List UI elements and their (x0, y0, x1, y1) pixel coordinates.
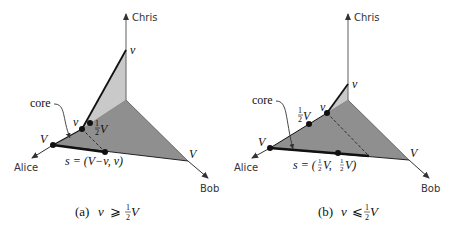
chris-v-label: v (130, 43, 136, 57)
alice-label: Alice (14, 162, 38, 173)
half-num: 1 (95, 119, 99, 128)
svg-text:v: v (341, 204, 347, 219)
caption-b: (b) v ⩽ 1 2 V (318, 203, 380, 222)
panel-a: Chris Alice Bob v V V v 1 2 V core s = (… (14, 12, 219, 194)
svg-text:2: 2 (365, 213, 369, 222)
svg-text:V: V (131, 204, 141, 219)
svg-text:2: 2 (340, 165, 344, 173)
s-point (335, 150, 341, 156)
alice-label: Alice (234, 162, 258, 173)
panel-b: Chris Alice Bob v V V v 1 2 V core s = (… (234, 12, 440, 194)
svg-text:s = (: s = ( (293, 158, 317, 172)
svg-text:1: 1 (318, 157, 322, 165)
s-formula: s = (V−v, v) (65, 154, 123, 168)
svg-text:V: V (370, 204, 380, 219)
point-v-label: v (73, 115, 79, 129)
bob-label: Bob (200, 183, 219, 194)
svg-text:⩾: ⩾ (110, 204, 121, 219)
caption-a: (a) v ⩾ 1 2 V (75, 203, 141, 222)
chris-label: Chris (132, 12, 157, 23)
core-diagram-figure: Chris Alice Bob v V V v 1 2 V core s = (… (0, 0, 454, 237)
core-label: core (252, 93, 273, 107)
half-den: 2 (298, 115, 302, 124)
s-formula: s = ( 1 2 V, 1 2 V) (293, 157, 356, 173)
svg-text:1: 1 (365, 203, 369, 212)
alice-V-point (50, 142, 56, 148)
alice-V-label: V (258, 135, 267, 149)
half-den: 2 (95, 128, 99, 137)
v-point (79, 126, 85, 132)
svg-text:2: 2 (318, 165, 322, 173)
svg-text:v: v (98, 204, 104, 219)
bob-axis (409, 160, 429, 178)
svg-text:(a): (a) (75, 204, 89, 219)
svg-text:V,: V, (323, 158, 332, 172)
dark-face (53, 100, 188, 161)
alice-V-point (267, 145, 273, 151)
chris-label: Chris (354, 12, 379, 23)
svg-text:1: 1 (126, 203, 130, 212)
svg-text:⩽: ⩽ (352, 204, 363, 219)
svg-text:1: 1 (340, 157, 344, 165)
alice-axis (252, 148, 270, 158)
bob-V-label: V (189, 147, 198, 161)
core-label: core (30, 96, 51, 110)
half-num: 1 (298, 106, 302, 115)
bob-axis (188, 161, 208, 178)
half-V: V (303, 109, 312, 123)
svg-text:V): V) (345, 158, 356, 172)
core-pointer (54, 104, 70, 138)
alice-V-label: V (40, 132, 49, 146)
bob-label: Bob (421, 183, 440, 194)
chris-v-label: v (352, 77, 358, 91)
point-v-label: v (320, 100, 326, 114)
bob-V-label: V (410, 146, 419, 160)
alice-axis (32, 145, 53, 158)
half-V-point (87, 120, 93, 126)
svg-text:2: 2 (126, 213, 130, 222)
svg-text:(b): (b) (318, 204, 333, 219)
